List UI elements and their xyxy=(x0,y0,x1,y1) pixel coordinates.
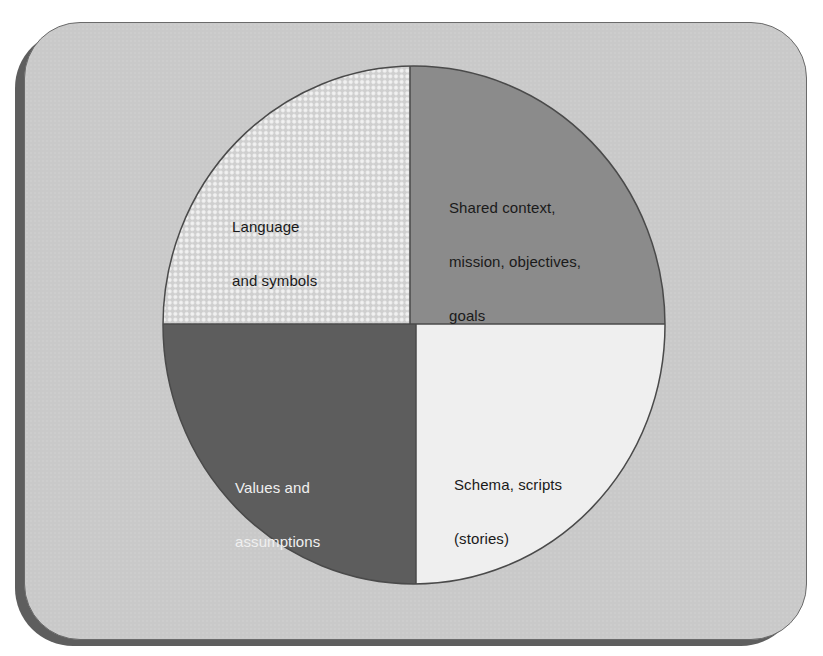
label-line: mission, objectives, xyxy=(449,253,581,271)
label-line: and symbols xyxy=(232,272,317,290)
label-line: (stories) xyxy=(454,530,562,548)
label-line: Shared context, xyxy=(449,199,581,217)
label-shared-context: Shared context, mission, objectives, goa… xyxy=(449,163,581,343)
label-language-and-symbols: Language and symbols xyxy=(232,182,317,308)
label-schema-scripts: Schema, scripts (stories) xyxy=(454,440,562,566)
label-values-and-assumptions: Values and assumptions xyxy=(235,443,320,569)
label-line: Language xyxy=(232,218,317,236)
label-line: Schema, scripts xyxy=(454,476,562,494)
label-line: Values and xyxy=(235,479,320,497)
label-line: goals xyxy=(449,307,581,325)
quadrant-pie xyxy=(0,0,823,656)
label-line: assumptions xyxy=(235,533,320,551)
